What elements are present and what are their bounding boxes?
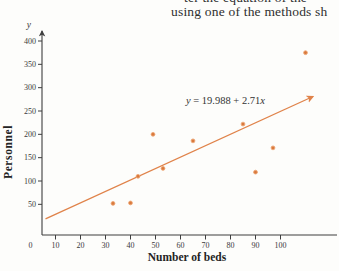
data-point [129,201,133,205]
data-point [271,146,275,150]
axes-group [42,31,337,235]
x-ticks-group: 0102030405060708090100 [29,235,287,250]
x-tick-label: 50 [152,241,160,250]
data-points-group [111,51,307,206]
data-point [254,170,258,174]
x-tick-label: 10 [52,241,60,250]
x-tick-label: 70 [202,241,210,250]
y-axis-symbol: y [26,20,32,30]
x-tick-label: 80 [227,241,235,250]
data-point [111,202,115,206]
y-ticks-group: 50100150200250300350400 [24,37,42,209]
y-tick-label: 400 [24,37,36,46]
y-tick-label: 100 [24,177,36,186]
data-point [241,122,245,126]
x-axis-title: Number of beds [148,251,227,263]
x-tick-label: 60 [177,241,185,250]
data-point [151,132,155,136]
scatter-plot-figure: ter the equation of the using one of the… [0,0,339,271]
data-point [304,51,308,55]
data-point [191,139,195,143]
equation-body: = 19.988 + 2.71 [191,95,261,106]
equation-variable: x [259,95,265,106]
x-tick-label: 90 [252,241,260,250]
data-point [136,174,140,178]
regression-equation-label: y = 19.988 + 2.71x [185,95,265,106]
x-tick-label: 0 [29,241,33,250]
y-tick-label: 50 [28,200,36,209]
y-tick-label: 350 [24,60,36,69]
y-tick-label: 150 [24,153,36,162]
x-tick-label: 30 [102,241,110,250]
scatter-svg: 50100150200250300350400 0102030405060708… [0,0,339,271]
y-axis-title: Personnel [2,125,14,179]
x-tick-label: 40 [127,241,135,250]
regression-line-group [46,97,314,219]
y-tick-label: 300 [24,83,36,92]
data-point [161,167,165,171]
y-tick-label: 200 [24,130,36,139]
y-tick-label: 250 [24,107,36,116]
x-tick-label: 100 [275,241,287,250]
chart-area: 50100150200250300350400 0102030405060708… [0,0,339,271]
regression-line [46,97,314,219]
x-tick-label: 20 [77,241,85,250]
